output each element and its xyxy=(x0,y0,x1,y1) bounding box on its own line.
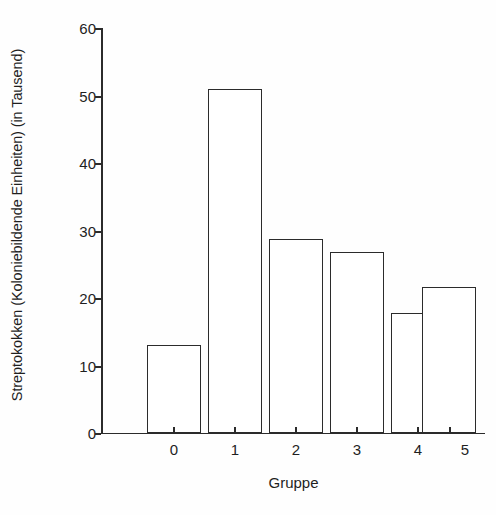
x-tick-label-0: 0 xyxy=(159,442,189,457)
y-axis-title: Streptokokken (Koloniebildende Einheiten… xyxy=(0,0,34,450)
y-tick-label-60: 60 xyxy=(62,21,96,36)
x-tick-mark-4 xyxy=(417,427,419,433)
y-tick-label-20: 20 xyxy=(62,291,96,306)
x-tick-mark-5 xyxy=(449,427,451,433)
x-tick-label-1: 1 xyxy=(220,442,250,457)
x-axis-title: Gruppe xyxy=(101,474,486,491)
y-tick-label-30: 30 xyxy=(62,224,96,239)
bar-group-5[interactable] xyxy=(422,287,476,433)
y-axis-line xyxy=(101,28,103,434)
bar-group-1[interactable] xyxy=(208,89,262,433)
x-tick-label-2: 2 xyxy=(281,442,311,457)
bar-group-0[interactable] xyxy=(147,345,201,433)
y-tick-label-0: 0 xyxy=(62,426,96,441)
y-tick-label-10: 10 xyxy=(62,359,96,374)
x-tick-mark-1 xyxy=(234,427,236,433)
y-tick-label-50: 50 xyxy=(62,89,96,104)
bar-group-3[interactable] xyxy=(330,252,384,433)
x-tick-mark-3 xyxy=(356,427,358,433)
bar-chart-figure: Streptokokken (Koloniebildende Einheiten… xyxy=(0,0,496,515)
bar-group-2[interactable] xyxy=(269,239,323,433)
x-tick-mark-2 xyxy=(295,427,297,433)
x-tick-label-3: 3 xyxy=(342,442,372,457)
x-tick-label-4: 4 xyxy=(403,442,433,457)
x-tick-mark-0 xyxy=(173,427,175,433)
y-tick-label-40: 40 xyxy=(62,156,96,171)
x-tick-label-5: 5 xyxy=(450,442,480,457)
